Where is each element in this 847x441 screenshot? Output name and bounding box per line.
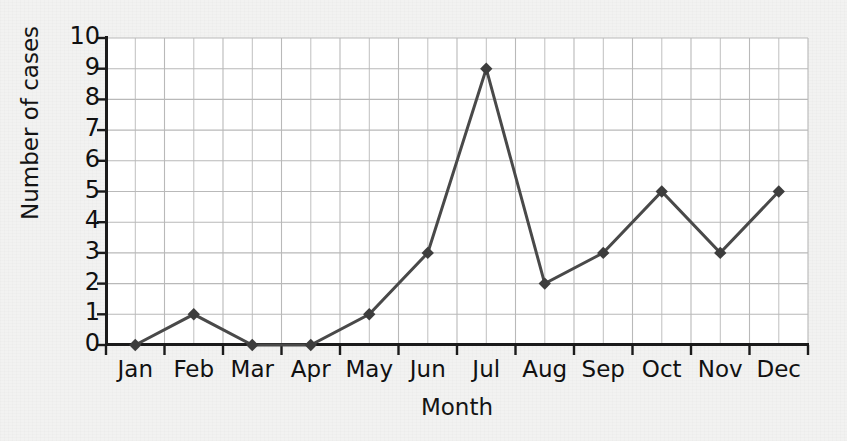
y-axis-tick-label: 0 (60, 331, 100, 355)
x-axis-tick-label: Dec (750, 356, 809, 382)
y-axis-tick-label: 7 (60, 116, 100, 140)
y-axis-title: Number of cases (17, 3, 43, 243)
y-axis-tick-label: 9 (60, 55, 100, 79)
y-axis-tick-labels: 012345678910 (52, 0, 100, 441)
y-axis-tick-label: 10 (60, 24, 100, 48)
x-axis-tick-label: Sep (574, 356, 633, 382)
x-axis-tick-label: Aug (516, 356, 575, 382)
y-axis-tick-label: 8 (60, 85, 100, 109)
line-chart-figure: 012345678910 JanFebMarAprMayJunJulAugSep… (0, 0, 847, 441)
chart-page: 012345678910 JanFebMarAprMayJunJulAugSep… (0, 0, 847, 441)
y-axis-tick-label: 1 (60, 300, 100, 324)
y-axis-tick-label: 5 (60, 178, 100, 202)
x-axis-tick-label: Nov (691, 356, 750, 382)
y-axis-tick-label: 6 (60, 147, 100, 171)
x-axis-tick-label: Jul (457, 356, 516, 382)
y-axis-tick-label: 4 (60, 208, 100, 232)
x-axis-ticks (106, 345, 808, 355)
x-axis-tick-label: Apr (282, 356, 341, 382)
x-axis-tick-label: Jan (106, 356, 165, 382)
x-axis-title: Month (106, 394, 808, 420)
x-axis-tick-label: Oct (633, 356, 692, 382)
x-axis-tick-label: Jun (399, 356, 458, 382)
x-axis-tick-label: Mar (223, 356, 282, 382)
y-axis-tick-label: 2 (60, 270, 100, 294)
x-axis-tick-label: May (340, 356, 399, 382)
y-axis-tick-label: 3 (60, 239, 100, 263)
x-axis-tick-label: Feb (165, 356, 224, 382)
